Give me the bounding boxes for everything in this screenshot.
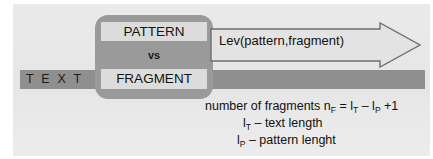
formula-lt-sub: T — [246, 122, 251, 132]
formula-lp-sub: P — [240, 139, 246, 149]
formula-text-a: number of fragments n — [205, 99, 331, 113]
formula-text-d: +1 — [381, 99, 399, 113]
formula-text-b: = l — [336, 99, 353, 113]
formula-sub-f: F — [331, 105, 336, 115]
formula-text-c: – l — [358, 99, 375, 113]
formula-sub-t: T — [353, 105, 358, 115]
formula-line-fragment-count: number of fragments nF = lT – lP +1 — [205, 99, 398, 113]
formula-line-text-length: lT – text length — [243, 116, 323, 130]
formula-sub-p: P — [375, 105, 381, 115]
vs-label: vs — [101, 47, 207, 63]
arrow-label: Lev(pattern,fragment) — [219, 32, 344, 50]
fragment-label: FRAGMENT — [101, 69, 207, 89]
formula-lp-desc: – pattern lenght — [245, 133, 335, 147]
diagram-canvas: T E X T PATTERN vs FRAGMENT Lev(pattern,… — [0, 0, 433, 159]
formula-lt-desc: – text length — [251, 116, 323, 130]
text-bar-label: T E X T — [26, 71, 98, 88]
formula-line-pattern-length: lP – pattern lenght — [237, 133, 336, 147]
pattern-label: PATTERN — [101, 22, 207, 41]
